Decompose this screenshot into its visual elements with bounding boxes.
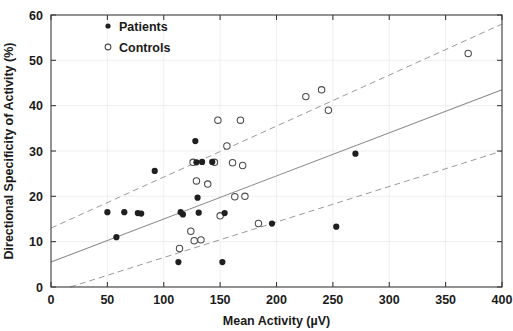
data-point-control <box>255 220 261 226</box>
y-axis-ticks-group: 0102030405060 <box>29 9 502 295</box>
data-point-control <box>176 245 182 251</box>
x-tick-label: 50 <box>100 293 114 307</box>
data-point-patient <box>138 210 144 216</box>
data-point-patient <box>113 234 119 240</box>
data-point-patient <box>209 159 215 165</box>
x-tick-label: 300 <box>379 293 400 307</box>
data-point-patient <box>121 209 127 215</box>
data-point-control <box>465 50 471 56</box>
data-point-control <box>198 237 204 243</box>
data-point-control <box>325 107 331 113</box>
data-point-control <box>188 228 194 234</box>
data-point-patient <box>352 151 358 157</box>
legend-marker-controls-icon <box>105 44 111 50</box>
y-tick-label: 60 <box>29 9 43 23</box>
y-tick-label: 50 <box>29 54 43 68</box>
data-point-control <box>232 194 238 200</box>
plot-canvas: 050100150200250300350400 0102030405060 M… <box>0 0 513 331</box>
y-tick-label: 30 <box>29 145 43 159</box>
data-point-patient <box>199 159 205 165</box>
data-point-patient <box>222 210 228 216</box>
data-point-control <box>205 181 211 187</box>
data-point-control <box>191 238 197 244</box>
x-tick-label: 250 <box>322 293 343 307</box>
data-point-patient <box>269 220 275 226</box>
legend-marker-patients-icon <box>105 23 110 28</box>
x-tick-label: 100 <box>153 293 174 307</box>
data-point-patient <box>196 210 202 216</box>
data-point-patient <box>193 159 199 165</box>
data-point-patient <box>104 209 110 215</box>
x-tick-label: 0 <box>48 293 55 307</box>
data-point-control <box>303 93 309 99</box>
y-tick-label: 0 <box>36 281 43 295</box>
confidence-band-lower <box>70 151 502 287</box>
data-point-control <box>237 117 243 123</box>
data-point-control <box>242 193 248 199</box>
data-point-patient <box>219 259 225 265</box>
data-point-control <box>193 178 199 184</box>
legend: Patients Controls <box>105 20 170 55</box>
y-axis-label: Directional Specificity of Activity (%) <box>2 43 16 260</box>
data-point-patient <box>175 259 181 265</box>
legend-label-patients: Patients <box>119 20 168 34</box>
data-point-patient <box>194 195 200 201</box>
gridlines-group <box>51 15 502 287</box>
x-tick-label: 150 <box>210 293 231 307</box>
y-tick-label: 10 <box>29 235 43 249</box>
data-point-control <box>229 160 235 166</box>
legend-label-controls: Controls <box>119 41 170 55</box>
data-point-control <box>224 143 230 149</box>
x-tick-label: 400 <box>492 293 513 307</box>
data-point-control <box>318 87 324 93</box>
y-tick-label: 20 <box>29 190 43 204</box>
data-point-control <box>215 117 221 123</box>
scatter-plot-figure: 050100150200250300350400 0102030405060 M… <box>0 0 513 331</box>
data-point-patient <box>192 138 198 144</box>
x-tick-label: 350 <box>435 293 456 307</box>
x-axis-label: Mean Activity (µV) <box>223 314 330 328</box>
patient-points-group <box>104 138 358 265</box>
data-point-patient <box>180 211 186 217</box>
y-tick-label: 40 <box>29 99 43 113</box>
data-point-patient <box>152 168 158 174</box>
x-axis-ticks-group: 050100150200250300350400 <box>48 15 513 307</box>
data-point-control <box>239 162 245 168</box>
data-point-patient <box>333 224 339 230</box>
x-tick-label: 200 <box>266 293 287 307</box>
